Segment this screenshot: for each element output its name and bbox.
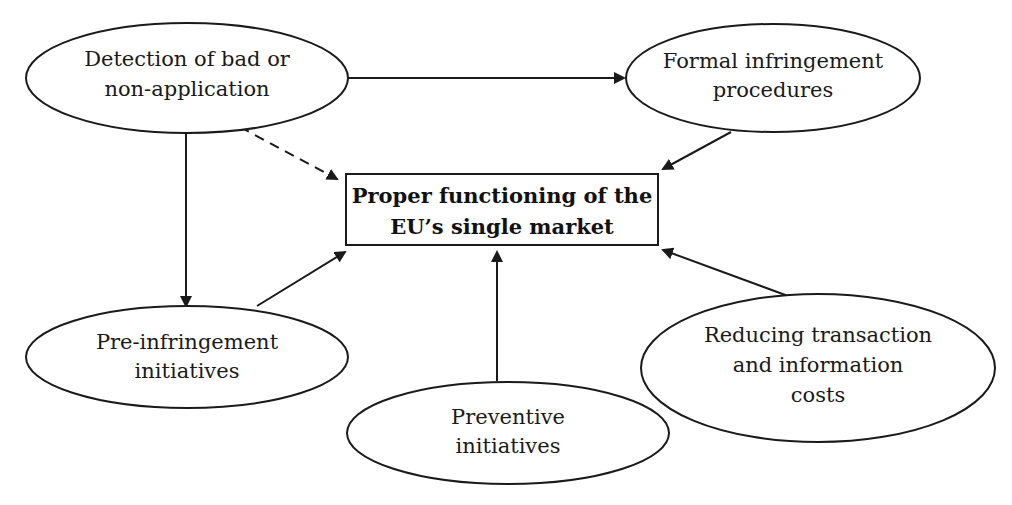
center-node: Proper functioning of the EU’s single ma… xyxy=(346,174,658,245)
node-detection: Detection of bad or non-application xyxy=(26,23,348,133)
node-reducing-line-2: and information xyxy=(733,353,904,377)
edge-pre-infringement-to-center xyxy=(257,252,345,306)
edge-formal-to-center xyxy=(663,132,731,169)
diagram-canvas: Proper functioning of the EU’s single ma… xyxy=(0,0,1012,505)
edge-reducing-costs-to-center xyxy=(663,250,788,296)
node-formal-infringement: Formal infringement procedures xyxy=(626,24,920,132)
node-pre-infringement-line-1: Pre-infringement xyxy=(96,330,279,354)
node-pre-infringement: Pre-infringement initiatives xyxy=(26,306,348,408)
node-reducing-costs: Reducing transaction and information cos… xyxy=(641,294,995,442)
edge-detection-to-center-dashed xyxy=(240,127,337,179)
node-reducing-line-1: Reducing transaction xyxy=(704,323,932,347)
node-detection-line-2: non-application xyxy=(104,77,269,101)
node-reducing-line-3: costs xyxy=(791,383,845,407)
node-formal-line-2: procedures xyxy=(713,78,834,102)
center-node-line-2: EU’s single market xyxy=(390,214,614,239)
node-preventive-line-1: Preventive xyxy=(451,405,565,429)
node-detection-line-1: Detection of bad or xyxy=(84,47,291,71)
node-formal-line-1: Formal infringement xyxy=(663,49,884,73)
node-pre-infringement-line-2: initiatives xyxy=(135,359,240,383)
center-node-line-1: Proper functioning of the xyxy=(352,183,653,208)
node-preventive-line-2: initiatives xyxy=(456,434,561,458)
node-preventive: Preventive initiatives xyxy=(347,382,669,484)
